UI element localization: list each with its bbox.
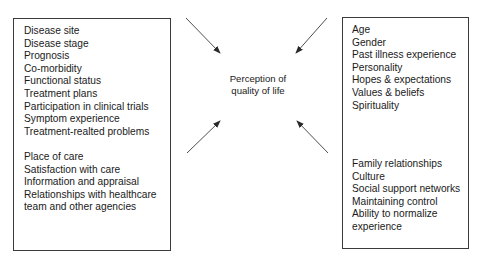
list-item: Disease stage [24,38,170,51]
arrow-top-left [186,18,220,53]
list-item: experience [352,221,460,234]
list-item: Ability to normalize [352,208,460,221]
list-item: Disease site [24,25,170,38]
group-spacer [24,138,170,151]
list-item: Treatment plans [24,88,170,101]
list-item: Family relationships [352,158,460,171]
list-item: Functional status [24,75,170,88]
social-factors-list: Family relationships Culture Social supp… [352,158,460,234]
list-item: Participation in clinical trials [24,101,170,114]
arrow-top-right [296,18,327,53]
list-item: Place of care [24,151,170,164]
personal-factors-box: Age Gender Past illness experience Perso… [342,17,469,249]
list-item: Culture [352,171,460,184]
personal-factors-list: Age Gender Past illness experience Perso… [352,24,468,112]
list-item: Prognosis [24,50,170,63]
clinical-factors-list: Disease site Disease stage Prognosis Co-… [24,25,170,138]
central-concept-line-1: Perception of [215,73,301,85]
list-item: Personality [352,62,468,75]
list-item: Social support networks [352,183,460,196]
clinical-factors-box: Disease site Disease stage Prognosis Co-… [13,18,171,251]
list-item: Values & beliefs [352,87,468,100]
list-item: Co-morbidity [24,63,170,76]
list-item: Age [352,24,468,37]
central-concept-label: Perception of quality of life [215,73,301,97]
list-item: Maintaining control [352,196,460,209]
list-item: Past illness experience [352,49,468,62]
list-item: Gender [352,37,468,50]
arrow-bottom-left [187,121,220,153]
central-concept-line-2: quality of life [215,85,301,97]
list-item: Information and appraisal [24,176,170,189]
list-item: Treatment-realted problems [24,126,170,139]
list-item: Spirituality [352,100,468,113]
care-factors-list: Place of care Satisfaction with care Inf… [24,151,170,214]
list-item: team and other agencies [24,201,170,214]
list-item: Satisfaction with care [24,164,170,177]
list-item: Symptom experience [24,113,170,126]
arrow-bottom-right [297,121,328,153]
list-item: Relationships with healthcare [24,189,170,202]
list-item: Hopes & expectations [352,74,468,87]
